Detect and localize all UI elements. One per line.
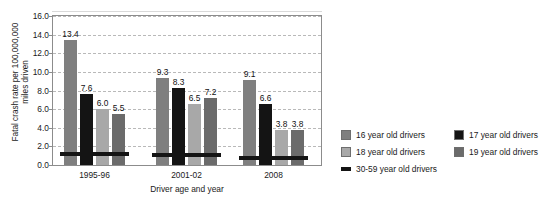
legend-item: 16 year old drivers bbox=[341, 126, 453, 143]
legend-item-reference-line: 30-59 year old drivers bbox=[341, 160, 437, 177]
bar: 3.8 bbox=[291, 130, 304, 165]
y-axis-tick-label: 4.0 bbox=[37, 123, 49, 133]
y-axis-tick-label: 0.0 bbox=[37, 160, 49, 170]
bar: 9.1 bbox=[243, 80, 256, 165]
y-axis-tick-label: 16.0 bbox=[33, 11, 49, 21]
legend-item: 30-59 year old drivers bbox=[341, 160, 437, 177]
plot-area: 0.02.04.06.08.010.012.014.016.013.47.66.… bbox=[52, 15, 322, 166]
bar-value-label: 9.3 bbox=[157, 67, 169, 77]
y-axis-title: Fatal crash rate per 100,000,000 miles d… bbox=[11, 0, 31, 167]
legend-swatch-icon bbox=[341, 147, 351, 157]
bar-value-label: 6.6 bbox=[260, 93, 272, 103]
legend-swatch-icon bbox=[454, 130, 464, 140]
bar-value-label: 13.4 bbox=[62, 29, 78, 39]
reference-line-30-59 bbox=[152, 153, 221, 157]
bar: 13.4 bbox=[64, 40, 77, 165]
y-axis-tick-mark bbox=[49, 72, 53, 73]
legend-item: 19 year old drivers bbox=[454, 143, 549, 160]
legend-column-left: 16 year old drivers18 year old drivers bbox=[341, 126, 453, 160]
legend-column-right: 17 year old drivers19 year old drivers bbox=[454, 126, 549, 160]
x-axis-title: Driver age and year bbox=[52, 184, 322, 194]
y-axis-tick-label: 12.0 bbox=[33, 48, 49, 58]
bar-value-label: 9.1 bbox=[244, 69, 256, 79]
y-axis-tick-label: 10.0 bbox=[33, 67, 49, 77]
legend-swatch-icon bbox=[341, 130, 351, 140]
bar: 5.5 bbox=[112, 114, 125, 165]
bar-value-label: 6.5 bbox=[189, 93, 201, 103]
legend-line-marker-icon bbox=[341, 167, 351, 171]
bar-value-label: 7.6 bbox=[81, 83, 93, 93]
bar-value-label: 5.5 bbox=[113, 103, 125, 113]
bar-group: 9.16.63.83.8 bbox=[243, 16, 319, 165]
bar-value-label: 3.8 bbox=[292, 119, 304, 129]
bar-value-label: 6.0 bbox=[97, 98, 109, 108]
y-axis-tick-mark bbox=[49, 165, 53, 166]
y-axis-tick-label: 2.0 bbox=[37, 141, 49, 151]
bar-value-label: 8.3 bbox=[173, 77, 185, 87]
scan-artifact-strip bbox=[52, 11, 322, 12]
y-axis-tick-label: 8.0 bbox=[37, 86, 49, 96]
legend-item: 17 year old drivers bbox=[454, 126, 549, 143]
bar-group: 13.47.66.05.5 bbox=[64, 16, 140, 165]
legend-label: 17 year old drivers bbox=[469, 130, 538, 140]
y-axis-tick-mark bbox=[49, 53, 53, 54]
y-axis-tick-mark bbox=[49, 91, 53, 92]
y-axis-tick-mark bbox=[49, 35, 53, 36]
y-axis-tick-mark bbox=[49, 16, 53, 17]
y-axis-tick-label: 14.0 bbox=[33, 30, 49, 40]
legend-label: 18 year old drivers bbox=[356, 147, 425, 157]
bar-value-label: 7.2 bbox=[205, 87, 217, 97]
legend-label: 16 year old drivers bbox=[356, 130, 425, 140]
y-axis-tick-label: 6.0 bbox=[37, 104, 49, 114]
legend-item: 18 year old drivers bbox=[341, 143, 453, 160]
legend-label: 19 year old drivers bbox=[469, 147, 538, 157]
y-axis-tick-mark bbox=[49, 128, 53, 129]
x-axis-category-label: 1995-96 bbox=[79, 170, 110, 180]
bar: 6.0 bbox=[96, 109, 109, 165]
legend-label: 30-59 year old drivers bbox=[356, 164, 437, 174]
fatal-crash-rate-bar-chart: Fatal crash rate per 100,000,000 miles d… bbox=[0, 0, 550, 213]
y-axis-tick-mark bbox=[49, 109, 53, 110]
bar-group: 9.38.36.57.2 bbox=[156, 16, 232, 165]
legend-swatch-icon bbox=[454, 147, 464, 157]
x-axis-category-label: 2008 bbox=[264, 170, 283, 180]
bar-value-label: 3.8 bbox=[276, 119, 288, 129]
y-axis-tick-mark bbox=[49, 146, 53, 147]
reference-line-30-59 bbox=[239, 156, 308, 160]
bar: 3.8 bbox=[275, 130, 288, 165]
x-axis-category-label: 2001-02 bbox=[171, 170, 202, 180]
reference-line-30-59 bbox=[60, 152, 129, 156]
